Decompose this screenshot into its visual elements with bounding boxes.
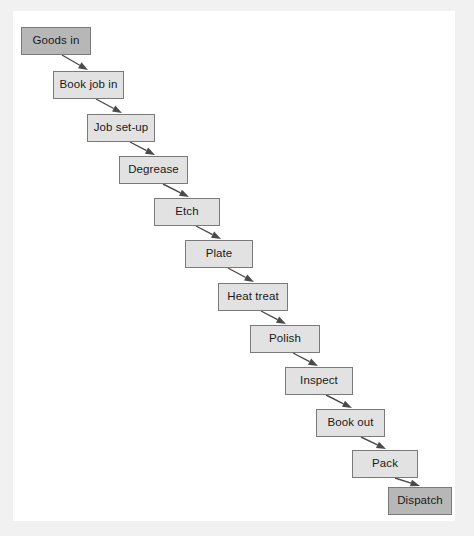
flowchart-node-label: Job set-up bbox=[94, 122, 149, 134]
flowchart-node-label: Book job in bbox=[60, 79, 118, 91]
flowchart-arrow-etch-to-plate bbox=[196, 226, 221, 239]
flowchart-node-etch: Etch bbox=[154, 198, 220, 226]
flowchart-arrow-job-set-up-to-degrease bbox=[130, 142, 155, 155]
flowchart-arrow-heat-treat-to-polish bbox=[261, 311, 286, 324]
flowchart-arrow-plate-to-heat-treat bbox=[228, 268, 254, 282]
flowchart-node-label: Dispatch bbox=[397, 495, 443, 507]
flowchart-node-polish: Polish bbox=[250, 325, 320, 353]
flowchart-node-pack: Pack bbox=[352, 450, 418, 478]
flowchart-arrow-degrease-to-etch bbox=[163, 184, 189, 197]
flowchart-arrow-inspect-to-book-out bbox=[326, 395, 352, 408]
flowchart-node-dispatch: Dispatch bbox=[388, 487, 452, 515]
flowchart-node-label: Heat treat bbox=[227, 291, 279, 303]
flowchart-node-label: Goods in bbox=[33, 35, 80, 47]
flowchart-node-heat-treat: Heat treat bbox=[218, 283, 288, 311]
flowchart-arrow-polish-to-inspect bbox=[293, 353, 318, 366]
flowchart-node-book-out: Book out bbox=[316, 409, 385, 437]
flowchart-arrow-pack-to-dispatch bbox=[395, 478, 420, 486]
flowchart-node-label: Book out bbox=[327, 417, 373, 429]
flowchart-node-label: Etch bbox=[175, 206, 198, 218]
flowchart-node-goods-in: Goods in bbox=[21, 27, 91, 55]
flowchart: Goods inBook job inJob set-upDegreaseEtc… bbox=[0, 0, 474, 536]
flowchart-node-job-set-up: Job set-up bbox=[87, 114, 155, 142]
flowchart-node-plate: Plate bbox=[185, 240, 253, 268]
flowchart-arrow-goods-in-to-book-job-in bbox=[62, 55, 88, 70]
flowchart-node-label: Plate bbox=[206, 248, 233, 260]
screenshot-canvas: Goods inBook job inJob set-upDegreaseEtc… bbox=[0, 0, 474, 536]
flowchart-node-degrease: Degrease bbox=[119, 156, 188, 184]
flowchart-arrow-book-job-in-to-job-set-up bbox=[96, 99, 122, 113]
flowchart-node-label: Pack bbox=[372, 458, 398, 470]
flowchart-node-label: Degrease bbox=[128, 164, 179, 176]
flowchart-node-book-job-in: Book job in bbox=[53, 71, 124, 99]
flowchart-node-label: Inspect bbox=[300, 375, 338, 387]
flowchart-arrow-book-out-to-pack bbox=[361, 437, 386, 449]
flowchart-node-inspect: Inspect bbox=[285, 367, 353, 395]
flowchart-node-label: Polish bbox=[269, 333, 301, 345]
